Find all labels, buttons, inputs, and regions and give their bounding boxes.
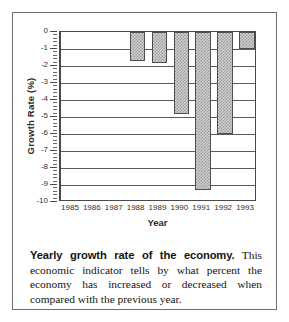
y-minor-tick [53, 58, 57, 59]
y-minor-tick [53, 136, 57, 137]
y-minor-tick [53, 96, 57, 97]
y-minor-tick [53, 140, 57, 141]
bar-1992 [217, 32, 233, 134]
x-tick-label: 1993 [232, 203, 258, 212]
y-minor-tick [53, 41, 57, 42]
y-minor-tick [53, 92, 57, 93]
chart: Growth Rate (%) 0-1-2-3-4-5-6-7-8-9-10 1… [13, 13, 278, 218]
x-axis-ticks: 198519861987198819891990199119921993 [59, 203, 256, 215]
y-minor-tick [53, 181, 57, 182]
y-tick-mark [50, 150, 57, 151]
y-tick-mark [50, 65, 57, 66]
figure-panel: Growth Rate (%) 0-1-2-3-4-5-6-7-8-9-10 1… [12, 12, 277, 310]
y-minor-tick [53, 106, 57, 107]
y-minor-tick [53, 51, 57, 52]
y-tick-label: -9 [41, 179, 48, 189]
y-minor-tick [53, 191, 57, 192]
y-tick-label: -7 [41, 145, 48, 155]
y-minor-tick [53, 123, 57, 124]
y-minor-tick [53, 38, 57, 39]
y-tick-label: 0 [44, 26, 48, 36]
y-minor-tick [53, 79, 57, 80]
bar-1993 [239, 32, 255, 49]
y-minor-tick [53, 89, 57, 90]
y-minor-tick [53, 68, 57, 69]
y-minor-tick [53, 119, 57, 120]
y-tick-label: -8 [41, 162, 48, 172]
y-tick-label: -3 [41, 77, 48, 87]
y-minor-tick [53, 147, 57, 148]
y-minor-tick [53, 170, 57, 171]
bar-1988 [130, 32, 146, 61]
y-minor-tick [53, 198, 57, 199]
plot-area [59, 31, 256, 201]
y-tick-mark [50, 48, 57, 49]
y-tick-label: -10 [36, 196, 48, 206]
y-minor-tick [53, 130, 57, 131]
y-tick-mark [50, 99, 57, 100]
y-minor-tick [53, 177, 57, 178]
y-tick-mark [50, 82, 57, 83]
bar-1991 [195, 32, 211, 190]
y-minor-tick [53, 194, 57, 195]
y-minor-tick [53, 157, 57, 158]
y-minor-tick [53, 109, 57, 110]
y-minor-tick [53, 45, 57, 46]
y-minor-tick [53, 75, 57, 76]
y-tick-mark [50, 167, 57, 168]
y-minor-tick [53, 72, 57, 73]
bar-1990 [174, 32, 190, 114]
y-tick-label: -2 [41, 60, 48, 70]
y-minor-tick [53, 85, 57, 86]
y-tick-mark [50, 184, 57, 185]
y-tick-mark [50, 201, 57, 202]
y-minor-tick [53, 126, 57, 127]
y-minor-tick [53, 34, 57, 35]
y-tick-label: -1 [41, 43, 48, 53]
y-tick-mark [50, 133, 57, 134]
y-minor-tick [53, 153, 57, 154]
bar-1989 [152, 32, 168, 63]
y-minor-tick [53, 55, 57, 56]
y-minor-tick [53, 62, 57, 63]
y-tick-label: -4 [41, 94, 48, 104]
y-minor-tick [53, 160, 57, 161]
y-minor-tick [53, 143, 57, 144]
y-tick-label: -5 [41, 111, 48, 121]
y-minor-tick [53, 174, 57, 175]
caption-lead: Yearly growth rate of the economy. [30, 249, 235, 261]
figure-caption: Yearly growth rate of the economy. This … [30, 248, 262, 306]
y-axis-ticks: 0-1-2-3-4-5-6-7-8-9-10 [13, 31, 57, 201]
y-minor-tick [53, 187, 57, 188]
y-minor-tick [53, 102, 57, 103]
y-minor-tick [53, 164, 57, 165]
y-tick-mark [50, 116, 57, 117]
y-tick-mark [50, 31, 57, 32]
y-minor-tick [53, 113, 57, 114]
bar-series [61, 32, 255, 200]
y-tick-label: -6 [41, 128, 48, 138]
x-axis-label: Year [59, 217, 256, 228]
